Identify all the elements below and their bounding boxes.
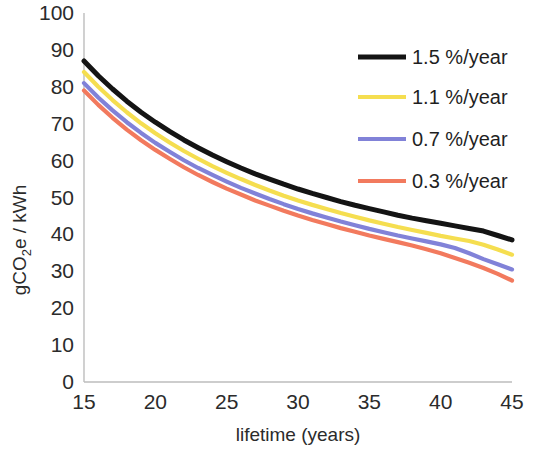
y-tick-label: 70 (51, 112, 74, 135)
x-tick-label: 30 (286, 390, 309, 413)
y-tick-label: 90 (51, 38, 74, 61)
y-axis-title-sub: 2 (19, 249, 34, 256)
x-tick-label: 35 (358, 390, 381, 413)
y-tick-labels: 0102030405060708090100 (39, 1, 74, 393)
y-tick-label: 60 (51, 149, 74, 172)
y-tick-label: 20 (51, 296, 74, 319)
y-tick-label: 50 (51, 186, 74, 209)
svg-text:gCO2e / kWh: gCO2e / kWh (9, 185, 34, 296)
x-tick-labels: 15202530354045 (72, 390, 523, 413)
y-axis-title-post: e / kWh (9, 185, 30, 249)
x-tick-label: 40 (429, 390, 452, 413)
x-tick-label: 15 (72, 390, 95, 413)
x-tick-label: 45 (500, 390, 523, 413)
x-tick-label: 20 (144, 390, 167, 413)
chart-container: 0102030405060708090100 15202530354045 1.… (0, 0, 535, 451)
legend-label-2: 0.7 %/year (412, 128, 508, 150)
legend-label-3: 0.3 %/year (412, 170, 508, 192)
y-axis-title-pre: gCO (9, 256, 30, 295)
y-tick-label: 30 (51, 259, 74, 282)
y-axis-title: gCO2e / kWh (9, 185, 34, 296)
y-tick-label: 10 (51, 333, 74, 356)
x-tick-label: 25 (215, 390, 238, 413)
x-axis-title: lifetime (years) (236, 424, 361, 445)
y-tick-label: 40 (51, 222, 74, 245)
y-tick-label: 80 (51, 75, 74, 98)
legend-label-1: 1.1 %/year (412, 86, 508, 108)
chart-legend: 1.5 %/year1.1 %/year0.7 %/year0.3 %/year (358, 46, 508, 192)
x-axis-title-text: lifetime (years) (236, 424, 361, 445)
line-chart: 0102030405060708090100 15202530354045 1.… (0, 0, 535, 451)
legend-label-0: 1.5 %/year (412, 46, 508, 68)
y-tick-label: 100 (39, 1, 74, 24)
